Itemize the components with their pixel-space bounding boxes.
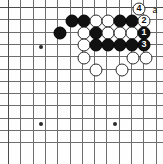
grid-line-vertical — [8, 0, 9, 164]
stone-white[interactable] — [127, 52, 140, 65]
stone-white[interactable] — [116, 64, 129, 77]
grid-line-vertical — [57, 0, 58, 164]
move-number: 3 — [141, 40, 146, 49]
grid-line-vertical — [156, 0, 157, 164]
star-point — [39, 122, 43, 126]
go-board-diagram: 2413 a — [0, 0, 163, 164]
stone-black[interactable] — [54, 27, 67, 40]
point-label-a: a — [153, 4, 158, 15]
stone-white-move-4[interactable]: 4 — [133, 3, 146, 16]
move-number: 4 — [136, 4, 141, 13]
star-point — [39, 45, 43, 49]
star-point — [113, 122, 117, 126]
stone-white[interactable] — [78, 52, 91, 65]
stone-white[interactable] — [90, 64, 103, 77]
grid-line-vertical — [45, 0, 46, 164]
stone-black-move-3[interactable]: 3 — [138, 39, 151, 52]
grid-line-vertical — [20, 0, 21, 164]
stone-white[interactable] — [140, 52, 153, 65]
move-number: 2 — [141, 16, 146, 25]
move-number: 1 — [141, 28, 146, 37]
grid-line-vertical — [33, 0, 34, 164]
